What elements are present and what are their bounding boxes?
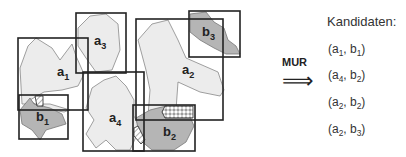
label-a4: a4 <box>109 110 121 128</box>
candidate-pair: (a4, b2) <box>328 68 365 84</box>
intersection-a2-b2 <box>162 106 193 118</box>
spatial-join-diagram <box>0 0 280 157</box>
candidate-pair: (a1, b1) <box>328 42 365 58</box>
label-b2: b2 <box>163 124 176 142</box>
label-a2: a2 <box>182 62 194 80</box>
candidate-pair: (a2, b2) <box>328 95 365 111</box>
label-a1: a1 <box>57 64 69 82</box>
label-b3: b3 <box>202 24 215 42</box>
candidate-pair: (a2, b3) <box>328 122 365 138</box>
label-b1: b1 <box>36 109 49 127</box>
mur-label: MUR <box>282 56 307 68</box>
label-a3: a3 <box>94 33 106 51</box>
implies-arrow-icon: ⟹ <box>282 70 314 92</box>
candidates-title: Kandidaten: <box>327 14 396 29</box>
